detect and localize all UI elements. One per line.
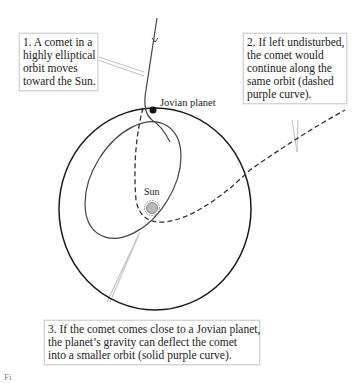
comet-incoming-path — [145, 18, 170, 142]
jovian-planet-label: Jovian planet — [160, 97, 216, 108]
sun-icon — [145, 201, 160, 216]
figure-label: Fi — [4, 372, 12, 382]
jovian-planet — [150, 107, 157, 114]
callout-2: 2. If left undisturbed, the comet would … — [243, 33, 347, 104]
callout-1: 1. A comet in a highly elliptical orbit … — [19, 33, 98, 91]
callout-3: 3. If the comet comes close to a Jovian … — [44, 320, 260, 365]
comet-new-orbit — [65, 105, 201, 256]
sun-label: Sun — [144, 186, 160, 197]
